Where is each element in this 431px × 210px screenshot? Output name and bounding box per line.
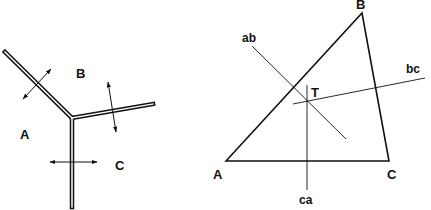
region-label-c: C (115, 158, 125, 173)
intersection-label-t: T (311, 85, 319, 100)
vertex-label-c: C (387, 167, 397, 182)
vertex-label-b: B (356, 0, 365, 12)
bisector-ab (252, 46, 346, 139)
region-label-a: A (20, 127, 30, 142)
bisector-label-bc: bc (406, 62, 420, 76)
triangle-figure: B A C ab bc ca T (213, 0, 425, 207)
bisector-label-ab: ab (242, 31, 256, 45)
triple-junction-figure: B A C (5, 52, 153, 207)
region-label-b: B (76, 66, 85, 81)
diagram-canvas: B A C B A C ab bc ca T (0, 0, 431, 210)
bisector-label-ca: ca (299, 193, 313, 207)
vertex-label-a: A (213, 167, 223, 182)
double-arrow-icon (108, 82, 116, 132)
